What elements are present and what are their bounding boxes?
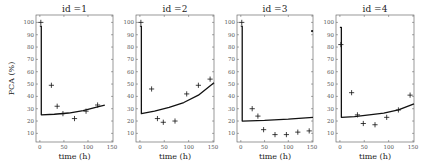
data-point-plus	[239, 20, 244, 25]
y-tick-label: 20	[228, 118, 235, 124]
data-point-plus	[384, 115, 389, 120]
y-tick-label: 30	[228, 106, 235, 112]
panel-title: id =2	[163, 4, 188, 14]
panel-title: id =3	[263, 4, 288, 14]
x-tick-label: 50	[261, 144, 268, 150]
y-tick-label: 90	[228, 32, 235, 38]
x-axis-label: time (h)	[259, 152, 291, 161]
x-tick-label: 100	[183, 144, 194, 150]
y-tick-label: 60	[228, 69, 235, 75]
y-tick-label: 100	[24, 19, 35, 25]
y-tick-label: 40	[327, 93, 334, 99]
panel-title: id =4	[363, 4, 388, 14]
plot-frame	[237, 15, 313, 142]
y-tick-label: 50	[127, 81, 134, 87]
data-point-plus	[208, 77, 213, 82]
y-tick-label: 100	[324, 19, 335, 25]
data-point-plus	[138, 20, 143, 25]
data-point-dot	[311, 30, 313, 32]
y-tick-label: 60	[327, 69, 334, 75]
x-tick-label: 100	[83, 144, 94, 150]
data-point-plus	[49, 83, 54, 88]
panel-3: id =3050100150102030405060708090100time …	[225, 4, 318, 161]
x-tick-label: 0	[338, 144, 342, 150]
y-tick-label: 20	[327, 118, 334, 124]
y-tick-label: 80	[127, 44, 134, 50]
data-point-plus	[184, 91, 189, 96]
data-point-plus	[361, 121, 366, 126]
y-tick-label: 80	[27, 44, 34, 50]
x-tick-label: 50	[361, 144, 368, 150]
y-tick-label: 70	[327, 56, 334, 62]
y-tick-label: 40	[27, 93, 34, 99]
y-tick-label: 60	[127, 69, 134, 75]
panel-2: id =2050100150102030405060708090100time …	[124, 4, 219, 161]
y-tick-label: 100	[124, 19, 135, 25]
data-point-plus	[261, 127, 266, 132]
chart-figure: id =1050100150102030405060708090100time …	[0, 0, 430, 167]
data-point-plus	[255, 114, 260, 119]
x-tick-label: 150	[208, 144, 219, 150]
y-tick-label: 80	[228, 44, 235, 50]
data-point-plus	[307, 128, 312, 133]
data-point-plus	[38, 20, 43, 25]
data-point-plus	[172, 118, 177, 123]
x-tick-label: 150	[408, 144, 419, 150]
y-tick-label: 20	[127, 118, 134, 124]
y-tick-label: 30	[27, 106, 34, 112]
model-curve	[40, 26, 105, 115]
y-tick-label: 10	[127, 130, 134, 136]
y-tick-label: 70	[127, 56, 134, 62]
data-point-plus	[408, 93, 413, 98]
y-tick-label: 70	[228, 56, 235, 62]
data-point-plus	[72, 116, 77, 121]
panel-4: id =4050100150102030405060708090100time …	[324, 4, 419, 161]
data-point-plus	[55, 104, 60, 109]
x-tick-label: 0	[239, 144, 243, 150]
data-point-plus	[149, 86, 154, 91]
y-tick-label: 50	[327, 81, 334, 87]
x-tick-label: 0	[38, 144, 42, 150]
plot-frame	[36, 15, 113, 142]
model-curve	[340, 27, 414, 117]
y-tick-label: 20	[27, 118, 34, 124]
y-tick-label: 90	[27, 32, 34, 38]
x-tick-label: 50	[60, 144, 67, 150]
panel-title: id =1	[62, 4, 87, 14]
x-axis-label: time (h)	[359, 152, 391, 161]
y-tick-label: 50	[27, 81, 34, 87]
y-axis-label: PCA (%)	[7, 62, 16, 96]
x-axis-label: time (h)	[58, 152, 90, 161]
y-tick-label: 70	[27, 56, 34, 62]
data-point-plus	[295, 130, 300, 135]
data-point-plus	[284, 132, 289, 137]
y-tick-label: 40	[127, 93, 134, 99]
y-tick-label: 60	[27, 69, 34, 75]
data-point-plus	[372, 122, 377, 127]
y-tick-label: 10	[228, 130, 235, 136]
panel-1: id =1050100150102030405060708090100time …	[7, 4, 118, 161]
data-point-plus	[155, 116, 160, 121]
y-tick-label: 30	[127, 106, 134, 112]
data-point-plus	[196, 83, 201, 88]
data-point-plus	[161, 120, 166, 125]
figure: id =1050100150102030405060708090100time …	[0, 0, 430, 167]
y-tick-label: 90	[327, 32, 334, 38]
y-tick-label: 10	[27, 130, 34, 136]
data-point-plus	[272, 132, 277, 137]
x-tick-label: 150	[107, 144, 118, 150]
y-tick-label: 30	[327, 106, 334, 112]
model-curve	[241, 26, 313, 121]
y-tick-label: 80	[327, 44, 334, 50]
x-tick-label: 100	[283, 144, 294, 150]
data-point-plus	[349, 90, 354, 95]
y-tick-label: 10	[327, 130, 334, 136]
y-tick-label: 40	[228, 93, 235, 99]
model-curve	[140, 26, 214, 114]
y-tick-label: 100	[225, 19, 236, 25]
x-tick-label: 150	[307, 144, 318, 150]
y-tick-label: 90	[127, 32, 134, 38]
x-tick-label: 100	[383, 144, 394, 150]
x-tick-label: 50	[161, 144, 168, 150]
y-tick-label: 50	[228, 81, 235, 87]
